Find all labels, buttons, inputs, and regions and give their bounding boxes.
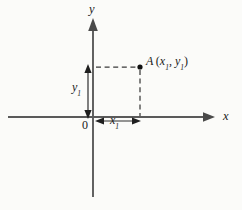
point-a-coord-x: x1 xyxy=(160,54,169,68)
x1-measure-arrowhead-right-icon xyxy=(132,117,141,124)
origin-label: 0 xyxy=(82,119,88,131)
point-a-name: A xyxy=(146,54,153,68)
y1-measure-label: y1 xyxy=(72,81,81,93)
point-a-close-paren: ) xyxy=(184,54,188,68)
coordinate-diagram: y x 0 A(x1, y1) y1 x1 xyxy=(0,0,242,210)
y1-measure-arrowhead-up-icon xyxy=(84,64,91,73)
y-axis xyxy=(88,18,98,197)
diagram-canvas xyxy=(0,0,242,210)
point-a-coord-y-subscript: 1 xyxy=(180,63,184,72)
point-a-label: A(x1, y1) xyxy=(146,55,188,67)
y1-measure-arrow xyxy=(84,64,91,119)
point-a-coord-x-subscript: 1 xyxy=(165,63,169,72)
y1-measure-label-subscript: 1 xyxy=(77,89,81,98)
point-a-coord-y: y1 xyxy=(175,54,184,68)
x-axis-arrowhead-icon xyxy=(203,112,215,122)
x1-measure-arrowhead-left-icon xyxy=(95,117,104,124)
y-axis-label: y xyxy=(89,3,95,16)
guide-lines xyxy=(96,67,140,116)
x1-measure-label-subscript: 1 xyxy=(115,122,119,131)
point-a-marker xyxy=(137,64,142,69)
x-axis-label: x xyxy=(223,110,229,123)
x1-measure-label: x1 xyxy=(110,114,119,126)
y-axis-arrowhead-icon xyxy=(88,18,98,31)
